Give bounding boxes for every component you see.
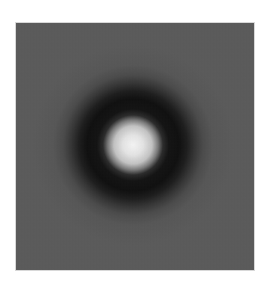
dark-surround-ring <box>16 23 254 270</box>
image-canvas <box>0 0 275 289</box>
center-surround-field <box>16 23 254 270</box>
